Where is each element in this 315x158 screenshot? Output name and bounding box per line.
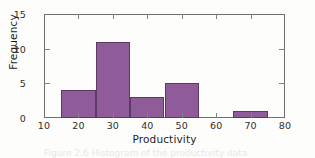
y-tick	[44, 83, 50, 84]
x-tick-top	[147, 14, 148, 19]
x-tick-label: 70	[244, 120, 256, 131]
y-tick-right	[279, 83, 285, 84]
x-tick-top	[216, 14, 217, 19]
x-tick-top	[182, 14, 183, 19]
x-tick	[78, 113, 79, 118]
histogram-figure: 1020304050607080 051015 Productivity Fre…	[0, 0, 315, 158]
x-tick-label: 10	[38, 120, 50, 131]
x-tick-label: 30	[107, 120, 119, 131]
x-tick-label: 60	[210, 120, 222, 131]
x-axis-title: Productivity	[44, 133, 285, 145]
x-tick-label: 40	[141, 120, 153, 131]
y-axis-title: Frequency	[7, 7, 19, 77]
figure-caption: Figure 2.6 Histogram of the productivity…	[44, 148, 294, 158]
x-tick-top	[251, 14, 252, 19]
x-tick-label: 80	[279, 120, 291, 131]
x-tick	[147, 113, 148, 118]
histogram-bars	[44, 14, 285, 118]
x-tick-top	[113, 14, 114, 19]
x-tick-top	[78, 14, 79, 19]
x-tick	[251, 113, 252, 118]
y-tick-label: 5	[20, 78, 26, 89]
y-tick	[44, 49, 50, 50]
histogram-bar	[96, 42, 130, 118]
x-tick-label: 50	[176, 120, 188, 131]
x-tick	[182, 113, 183, 118]
y-tick-label: 0	[20, 113, 26, 124]
x-tick	[113, 113, 114, 118]
y-tick-right	[279, 49, 285, 50]
x-tick	[216, 113, 217, 118]
x-tick-label: 20	[72, 120, 84, 131]
